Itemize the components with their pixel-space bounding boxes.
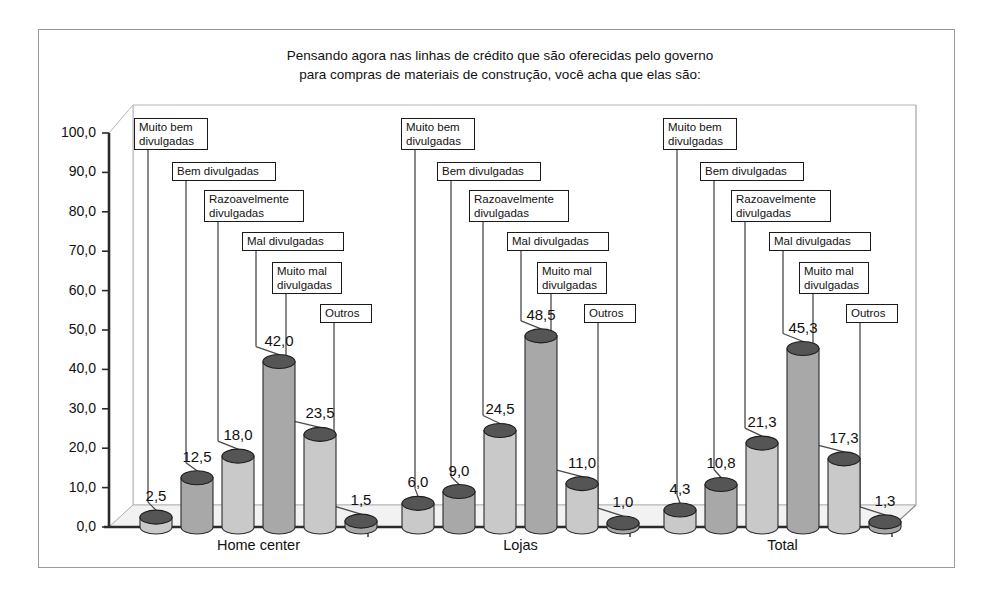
series-callout-label: Outros — [320, 304, 372, 323]
series-callout-label: Muito bem divulgadas — [134, 118, 208, 150]
bar-cylinder — [664, 503, 696, 534]
bar-cylinder — [402, 496, 434, 534]
y-tick-label: 90,0 — [34, 163, 96, 179]
bar-cylinder — [746, 436, 778, 534]
bar-value-label: 6,0 — [408, 473, 429, 490]
bar-cylinder — [607, 516, 639, 534]
series-callout-label: Bem divulgadas — [437, 162, 541, 181]
x-axis-category-label: Total — [703, 537, 863, 553]
y-tick-label: 80,0 — [34, 203, 96, 219]
y-tick-label: 70,0 — [34, 242, 96, 258]
bar-value-label: 1,0 — [613, 493, 634, 510]
y-tick-label: 100,0 — [34, 124, 96, 140]
bar-value-label: 4,3 — [670, 480, 691, 497]
series-callout-label: Razoavelmente divulgadas — [204, 190, 304, 222]
series-callout-label: Bem divulgadas — [172, 162, 276, 181]
bar-cylinder — [263, 355, 295, 534]
bar-cylinder — [140, 510, 172, 534]
bar-value-label: 10,8 — [706, 454, 735, 471]
series-callout-label: Mal divulgadas — [507, 232, 609, 251]
bar-value-label: 11,0 — [568, 454, 596, 471]
bar-cylinder — [443, 485, 475, 534]
y-axis — [102, 133, 109, 527]
bar-cylinder — [566, 477, 598, 534]
bar-cylinder — [869, 515, 901, 534]
bar-cylinder — [222, 449, 254, 534]
y-tick-label: 0,0 — [34, 518, 96, 534]
series-callout-label: Muito mal divulgadas — [272, 262, 342, 294]
y-tick-label: 20,0 — [34, 439, 96, 455]
bar-cylinder — [345, 514, 377, 534]
series-callout-label: Mal divulgadas — [242, 232, 344, 251]
series-callout-label: Muito bem divulgadas — [401, 118, 475, 150]
series-callout-label: Muito mal divulgadas — [799, 262, 869, 294]
bar-value-label: 21,3 — [747, 413, 776, 430]
bar-value-label: 17,3 — [829, 429, 858, 446]
series-callout-label: Muito bem divulgadas — [663, 118, 737, 150]
bar-cylinder — [484, 423, 516, 534]
bar-cylinder — [705, 477, 737, 534]
bar-value-label: 42,0 — [264, 332, 293, 349]
bar-cylinder — [304, 427, 336, 534]
y-tick-label: 60,0 — [34, 282, 96, 298]
series-callout-label: Razoavelmente divulgadas — [469, 190, 569, 222]
series-callout-label: Outros — [846, 304, 898, 323]
x-axis-category-label: Lojas — [441, 537, 601, 553]
y-tick-label: 40,0 — [34, 360, 96, 376]
bar-cylinder — [787, 342, 819, 534]
bar-value-label: 23,5 — [305, 404, 334, 421]
bar-value-label: 48,5 — [526, 306, 555, 323]
bar-value-label: 45,3 — [788, 319, 817, 336]
y-tick-label: 30,0 — [34, 400, 96, 416]
bar-value-label: 1,3 — [875, 492, 896, 509]
bar-cylinder — [828, 452, 860, 534]
bar-value-label: 9,0 — [449, 462, 470, 479]
x-axis-category-label: Home center — [179, 537, 339, 553]
bar-value-label: 12,5 — [182, 448, 211, 465]
chart-plot-area — [0, 0, 992, 600]
bar-cylinder — [525, 329, 557, 534]
series-callout-label: Outros — [584, 304, 636, 323]
bar-value-label: 18,0 — [223, 426, 252, 443]
series-callout-label: Bem divulgadas — [700, 162, 804, 181]
y-tick-label: 50,0 — [34, 321, 96, 337]
chart-page: Pensando agora nas linhas de crédito que… — [0, 0, 992, 600]
series-callout-label: Mal divulgadas — [769, 232, 871, 251]
bar-value-label: 2,5 — [146, 487, 167, 504]
series-callout-label: Razoavelmente divulgadas — [731, 190, 831, 222]
bar-cylinder — [181, 471, 213, 534]
series-callout-label: Muito mal divulgadas — [537, 262, 607, 294]
bar-value-label: 24,5 — [485, 400, 514, 417]
y-tick-label: 10,0 — [34, 479, 96, 495]
bar-value-label: 1,5 — [351, 491, 372, 508]
